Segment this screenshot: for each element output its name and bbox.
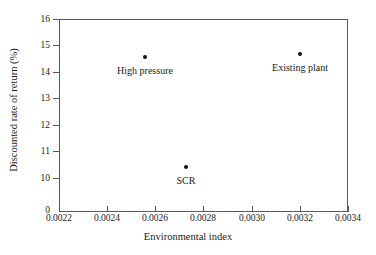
scatter-chart-figure: 16 15 14 13 12 11 10 0 0.0022 0.0024 0.0… [0,0,376,255]
x-axis-tick-label: 0.0028 [190,213,216,224]
x-axis-tick [107,206,108,212]
data-point-label-scr: SCR [177,175,196,186]
y-axis-tick [53,125,59,126]
y-axis-tick-label: 15 [41,40,51,50]
x-axis-tick [348,206,349,212]
y-axis-tick [53,98,59,99]
data-point-label-existing-plant: Existing plant [272,62,328,73]
y-axis-tick-label: 12 [41,120,51,130]
y-axis-tick [53,19,59,20]
x-axis-tick-label: 0.0032 [287,213,313,224]
x-axis-tick [59,206,60,212]
y-axis-tick [53,178,59,179]
y-axis-tick [53,72,59,73]
x-axis-tick [203,206,204,212]
y-axis-tick [53,151,59,152]
plot-area [59,19,348,212]
x-axis-tick-label: 0.0024 [94,213,120,224]
x-axis-tick-label: 0.0022 [46,213,72,224]
x-axis-tick [300,206,301,212]
y-axis-tick-label: 10 [41,173,51,183]
x-axis-tick-label: 0.0026 [142,213,168,224]
data-point-existing-plant[interactable] [298,52,302,56]
y-axis-tick-label: 14 [41,67,51,77]
data-point-label-high-pressure: High pressure [117,65,173,76]
x-axis-tick [252,206,253,212]
y-axis-tick-label: 16 [41,14,51,24]
data-point-scr[interactable] [184,165,188,169]
y-axis-tick-label: 11 [41,146,50,156]
data-point-high-pressure[interactable] [143,55,147,59]
x-axis-tick [155,206,156,212]
y-axis-tick [53,45,59,46]
x-axis-title: Environmental index [0,231,376,243]
x-axis-tick-label: 0.0030 [239,213,265,224]
x-axis-tick-label: 0.0034 [335,213,361,224]
y-axis-tick-label: 13 [41,93,51,103]
y-axis-title: Discounted rate of return (%) [8,20,20,200]
